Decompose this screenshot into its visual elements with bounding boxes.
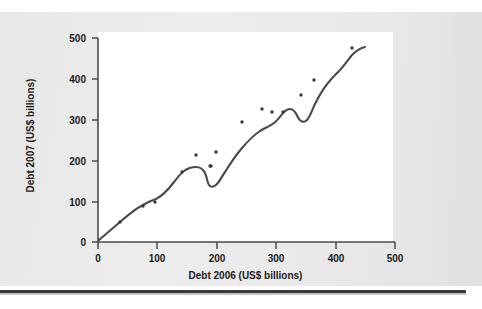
y-axis-ticks [92,38,98,242]
data-point [312,78,315,81]
data-point [281,110,284,113]
data-point [180,170,183,173]
y-tick-label-0: 0 [56,237,86,248]
data-point [214,150,217,153]
data-point [209,164,212,167]
x-axis-title: Debt 2006 (US$ billions) [98,270,393,281]
y-tick-label-100: 100 [56,197,86,208]
x-tick-label-0: 0 [83,253,113,264]
data-point [194,153,197,156]
x-tick-label-100: 100 [142,253,172,264]
y-tick-label-400: 400 [56,74,86,85]
scatter-chart-figure: 500 400 300 200 100 0 0 100 200 300 400 … [0,0,482,309]
x-tick-label-400: 400 [321,253,351,264]
data-point [299,93,302,96]
y-tick-label-500: 500 [56,33,86,44]
data-point [153,200,156,203]
data-point [350,46,353,49]
data-point [260,107,263,110]
y-tick-label-200: 200 [56,156,86,167]
data-point [270,110,273,113]
y-tick-label-300: 300 [56,115,86,126]
x-tick-label-500: 500 [380,253,410,264]
x-tick-label-200: 200 [202,253,232,264]
x-tick-label-300: 300 [261,253,291,264]
x-axis-ticks [98,242,395,249]
data-point-markers [118,46,353,223]
data-trend-curve [99,47,365,240]
data-point [240,120,243,123]
y-axis-title: Debt 2007 (US$ billions) [25,51,36,221]
data-point [118,220,121,223]
data-point [141,204,144,207]
